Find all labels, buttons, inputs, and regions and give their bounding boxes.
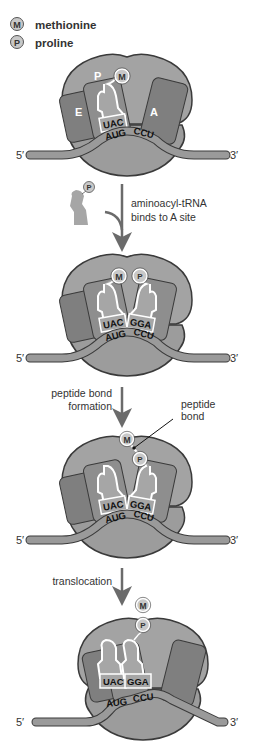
residue-label: M xyxy=(139,601,146,611)
three-prime-label: 3′ xyxy=(230,716,238,728)
three-prime-label: 3′ xyxy=(230,149,238,161)
transition-label: peptide bond xyxy=(51,387,112,399)
residue-label: P xyxy=(86,183,91,192)
legend-item-methionine: M methionine xyxy=(11,18,97,32)
anticodon-label: GGA xyxy=(127,676,149,687)
transition-label: binds to A site xyxy=(131,211,196,223)
translation-diagram: M methionine P proline E P A UAC M xyxy=(0,0,254,747)
residue-label: M xyxy=(115,272,123,282)
residue-label: P xyxy=(137,455,143,464)
free-trna xyxy=(70,190,88,225)
legend-label: proline xyxy=(35,37,73,49)
five-prime-label: 5′ xyxy=(16,352,24,364)
transition-label: aminoacyl-tRNA xyxy=(131,197,207,209)
legend-label: methionine xyxy=(35,19,96,31)
transition-2: peptide bond formation xyxy=(51,387,122,418)
three-prime-label: 3′ xyxy=(230,534,238,546)
residue-label: P xyxy=(140,621,146,630)
peptide-bond-annotation: peptide bond xyxy=(181,398,216,422)
transition-1: P aminoacyl-tRNA binds to A site xyxy=(70,182,207,243)
annotation-label: peptide xyxy=(181,398,216,410)
ribosome-step-1: E P A UAC M AUG CCU 5′ 3′ xyxy=(16,54,238,176)
annotation-label: bond xyxy=(181,410,205,422)
transition-3: translocation xyxy=(52,568,122,596)
e-site-label: E xyxy=(75,106,82,118)
peptide-bond-dot xyxy=(132,446,136,450)
ribosome-step-3: UAC GGA M P AUG CCU 5′ 3′ xyxy=(16,419,238,558)
ribosome-step-2: UAC GGA M P AUG CCU 5′ 3′ xyxy=(16,254,238,376)
p-site-label: P xyxy=(94,70,101,82)
codon-label: AUG xyxy=(106,696,128,709)
transition-label: translocation xyxy=(52,575,112,587)
legend: M methionine P proline xyxy=(11,18,97,50)
ribosome-step-4: UAC GGA M P AUG CCU 5′ 3′ xyxy=(16,597,238,740)
transition-label: formation xyxy=(68,400,112,412)
five-prime-label: 5′ xyxy=(16,716,24,728)
codon-label: CCU xyxy=(132,691,154,704)
residue-label: M xyxy=(118,72,126,82)
residue-label: P xyxy=(137,272,143,281)
legend-item-proline: P proline xyxy=(11,36,74,50)
legend-symbol: M xyxy=(13,20,21,30)
five-prime-label: 5′ xyxy=(16,534,24,546)
anticodon-label: UAC xyxy=(103,676,124,687)
join-curve xyxy=(105,212,122,230)
three-prime-label: 3′ xyxy=(230,352,238,364)
legend-symbol: P xyxy=(14,38,20,48)
residue-label: M xyxy=(123,435,130,445)
five-prime-label: 5′ xyxy=(16,149,24,161)
a-site-label: A xyxy=(150,106,158,118)
